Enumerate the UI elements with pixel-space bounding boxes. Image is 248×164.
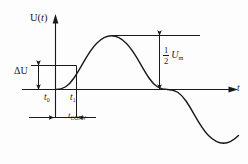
sine-wave-conversion-diagram: U(t) t ΔU t0 t1 tCONV 1 2 Um — [0, 0, 248, 164]
delta-u-construction — [31, 66, 77, 90]
t1-label-sub: 1 — [73, 97, 76, 103]
y-axis-label: U(t) — [30, 13, 48, 24]
fraction-numerator: 1 — [163, 46, 169, 55]
delta-u-label: ΔU — [14, 66, 28, 76]
fraction-denominator: 2 — [163, 57, 169, 66]
x-axis-label: t — [237, 84, 240, 94]
tconv-label: tCONV — [68, 111, 86, 121]
y-axis-label-var: U — [30, 12, 38, 23]
um-symbol: Um — [171, 50, 183, 61]
one-half-fraction: 1 2 — [163, 46, 169, 66]
t0-label: t0 — [44, 93, 50, 104]
um-sub: m — [178, 54, 183, 61]
y-axis-label-paren-close: ) — [44, 12, 48, 23]
t1-label: t1 — [70, 93, 76, 104]
half-um-label: 1 2 Um — [163, 46, 183, 66]
half-um-dimension — [112, 36, 201, 90]
diagram-canvas — [0, 0, 248, 164]
t0-label-sub: 0 — [47, 97, 50, 103]
tconv-label-sub: CONV — [71, 115, 87, 121]
